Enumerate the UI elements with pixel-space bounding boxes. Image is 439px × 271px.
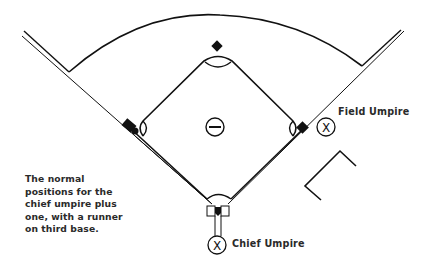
caption-line-4: one, with a runner: [25, 211, 145, 224]
batters-box-right: [221, 206, 229, 216]
right-foul-line-inner: [228, 31, 404, 204]
second-base-cutout: [205, 62, 231, 67]
second-base: [211, 40, 222, 51]
right-foul-line-inner2: [231, 130, 302, 199]
field-umpire-label: Field Umpire: [338, 106, 409, 117]
field-umpire-x: X: [322, 121, 330, 135]
caption-line-3: chief umpire plus: [25, 198, 145, 211]
caption-line-5: on third base.: [25, 223, 145, 236]
left-foul-line-edge: [135, 136, 212, 204]
first-base: [296, 121, 309, 134]
caption-line-2: positions for the: [25, 186, 145, 199]
third-base-cutout: [143, 121, 147, 136]
home-plate: [215, 207, 221, 216]
left-foul-line-outer: [24, 31, 69, 72]
first-base-cutout: [290, 121, 294, 136]
caption-line-1: The normal: [25, 173, 145, 186]
diagram-caption: The normal positions for the chief umpir…: [25, 173, 145, 236]
chief-umpire-label: Chief Umpire: [232, 238, 305, 249]
movement-chevron: [305, 151, 356, 200]
home-plate-arc: [207, 195, 231, 200]
runner-marker: [132, 128, 139, 135]
right-foul-line-outer: [362, 30, 401, 66]
chief-umpire-x: X: [213, 239, 221, 253]
batters-box-left: [207, 206, 215, 216]
